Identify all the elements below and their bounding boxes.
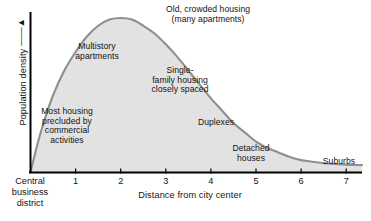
x-tick-label-6: 6 — [289, 176, 313, 186]
annotation-duplexes: Duplexes — [186, 118, 246, 128]
annotation-detached-houses: Detached houses — [220, 144, 282, 163]
central-business-district-label: Central business district — [0, 176, 64, 209]
annotation-multistory-apartments: Multistory apartments — [61, 42, 133, 61]
annotation-single-family-housing: Single- family housing closely spaced — [134, 66, 226, 95]
y-axis-arrow-icon: ——▲ — [16, 18, 26, 46]
population-density-chart: Population density——▲ Distance from city… — [0, 0, 371, 221]
x-tick-label-3: 3 — [154, 176, 178, 186]
annotation-suburbs: Suburbs — [314, 157, 364, 167]
x-tick-label-2: 2 — [109, 176, 133, 186]
x-tick-label-1: 1 — [64, 176, 88, 186]
x-axis-label: Distance from city center — [30, 190, 350, 200]
x-tick-label-7: 7 — [334, 176, 358, 186]
annotation-most-housing-precluded: Most housing precluded by commercial act… — [27, 107, 107, 146]
x-tick-label-5: 5 — [244, 176, 268, 186]
annotation-old-crowded-housing: Old, crowded housing (many apartments) — [148, 5, 268, 24]
x-tick-label-4: 4 — [199, 176, 223, 186]
